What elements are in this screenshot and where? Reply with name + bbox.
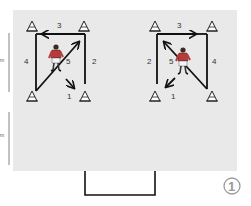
label-1: 1 <box>171 92 176 101</box>
figure-number-badge: 1 <box>224 178 240 194</box>
label-3: 3 <box>177 21 182 30</box>
drill-diagram: m m 3 2 4 5 1 <box>0 0 251 206</box>
label-1: 1 <box>67 92 72 101</box>
label-5: 5 <box>169 57 174 66</box>
measure-label-top: m <box>0 57 4 63</box>
svg-text:1: 1 <box>228 179 235 194</box>
label-2: 2 <box>147 57 152 66</box>
label-5: 5 <box>66 57 71 66</box>
goal <box>85 171 155 195</box>
measure-label-bottom: m <box>0 132 4 138</box>
label-2: 2 <box>92 57 97 66</box>
label-4: 4 <box>24 57 29 66</box>
label-3: 3 <box>57 21 62 30</box>
label-4: 4 <box>212 57 217 66</box>
measurement-marks: m m <box>0 33 9 165</box>
